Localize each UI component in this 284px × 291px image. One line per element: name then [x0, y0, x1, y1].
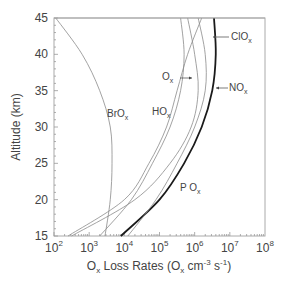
- curve-nox: [128, 18, 206, 236]
- y-tick-label: 30: [35, 120, 49, 134]
- y-tick-label: 45: [35, 11, 49, 25]
- y-axis-title: Altitude (km): [9, 93, 23, 160]
- y-tick-label: 20: [35, 193, 49, 207]
- x-tick-label: 105: [151, 239, 169, 255]
- y-tick-label: 35: [35, 84, 49, 98]
- curve-label-brox: BrOx: [107, 108, 129, 121]
- curve-label-hox: HOx: [152, 106, 171, 119]
- x-axis-title: Ox Loss Rates (Ox cm-3 s-1): [87, 258, 231, 275]
- curves: [54, 18, 265, 236]
- curve-ox: [100, 18, 184, 236]
- x-tick-label: 102: [45, 239, 63, 255]
- x-tick-label: 104: [115, 239, 133, 255]
- curve-label-p-ox: P Ox: [180, 182, 201, 195]
- curve-label-ox: Ox: [162, 71, 174, 84]
- x-tick-label: 107: [221, 239, 239, 255]
- x-axis-ticks: 102103104105106107108: [45, 232, 274, 255]
- y-tick-label: 25: [35, 156, 49, 170]
- ox-loss-rates-chart: 15202530354045 102103104105106107108 P O…: [0, 0, 284, 291]
- x-tick-label: 106: [186, 239, 204, 255]
- x-tick-label: 103: [80, 239, 98, 255]
- curve-brox: [56, 18, 112, 236]
- curve-label-nox: NOx: [229, 82, 248, 95]
- y-tick-label: 40: [35, 47, 49, 61]
- plot-frame: [54, 18, 265, 236]
- curve-clox: [72, 18, 199, 236]
- curve-hox: [68, 18, 202, 236]
- curve-label-clox: ClOx: [231, 31, 252, 44]
- x-tick-label: 108: [256, 239, 274, 255]
- curve-p-ox: [121, 18, 216, 236]
